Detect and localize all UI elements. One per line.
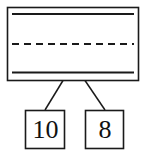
edge-root-to-left xyxy=(45,81,63,111)
leaf-8-label: 8 xyxy=(86,111,124,149)
tree-diagram: 10 8 xyxy=(0,0,146,159)
leaf-10-label: 10 xyxy=(26,111,65,149)
diagram-canvas xyxy=(0,0,146,159)
edge-root-to-right xyxy=(85,81,105,111)
